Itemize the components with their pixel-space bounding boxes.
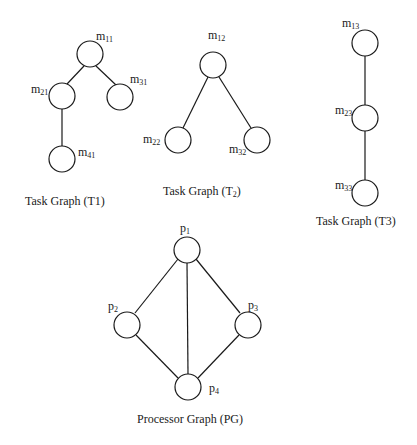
node-m11 — [77, 41, 103, 67]
caption-processor-graph: Processor Graph (PG) — [137, 412, 243, 426]
node-m13 — [352, 30, 378, 56]
task-graph-t2-edges — [183, 77, 251, 128]
node-m22 — [165, 127, 191, 153]
edge-p3-p4 — [198, 335, 239, 378]
edge-m12-m32 — [219, 77, 251, 128]
node-m31 — [107, 84, 133, 110]
label-p3: p3 — [248, 299, 258, 311]
label-m23: m23 — [335, 104, 352, 116]
edge-p1-p4 — [187, 263, 188, 374]
label-m11: m11 — [96, 30, 113, 42]
node-m21 — [49, 83, 75, 109]
edge-p1-p2 — [135, 259, 178, 313]
caption-task-graph-t2: Task Graph (T2) — [163, 184, 241, 198]
label-p2: p2 — [108, 300, 118, 312]
label-p1: p1 — [180, 222, 190, 234]
node-m33 — [352, 180, 378, 206]
node-p4 — [175, 374, 201, 400]
edge-p1-p3 — [196, 259, 240, 313]
edge-m12-m22 — [183, 77, 208, 128]
label-m33: m33 — [335, 179, 352, 191]
task-graph-t2-nodes — [165, 52, 270, 153]
caption-task-graph-t1: Task Graph (T1) — [25, 194, 105, 208]
label-m31: m31 — [130, 73, 147, 85]
label-m21: m21 — [31, 83, 48, 95]
edge-m11-m21 — [67, 66, 84, 84]
label-m22: m22 — [143, 133, 160, 145]
edge-m11-m31 — [96, 66, 116, 85]
node-m41 — [49, 146, 75, 172]
caption-task-graph-t3: Task Graph (T3) — [316, 214, 396, 228]
node-p3 — [235, 312, 261, 338]
node-m32 — [244, 127, 270, 153]
node-m12 — [200, 52, 226, 78]
node-m23 — [352, 105, 378, 131]
node-p2 — [114, 312, 140, 338]
node-p1 — [174, 237, 200, 263]
label-m12: m12 — [208, 29, 225, 41]
label-p4: p4 — [209, 382, 219, 394]
processor-graph-edges — [135, 259, 240, 378]
label-m41: m41 — [78, 146, 95, 158]
label-m13: m13 — [342, 17, 359, 29]
task-graph-t3-nodes — [352, 30, 378, 206]
edge-p2-p4 — [136, 335, 178, 378]
label-m32: m32 — [229, 143, 246, 155]
